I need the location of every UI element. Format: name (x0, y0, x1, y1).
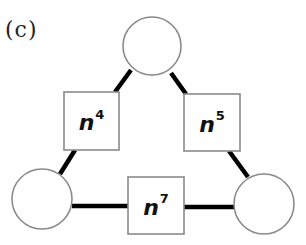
edge-left-bottom-left (60, 150, 75, 174)
factor-base: n (199, 112, 215, 137)
factor-base: n (143, 195, 159, 220)
factor-exponent: 4 (95, 107, 104, 122)
factor-base: n (79, 110, 95, 135)
edge-top-left (115, 70, 131, 92)
edge-right-bottom-right (229, 151, 248, 177)
edge-top-right (171, 73, 186, 94)
factor-exponent: 7 (160, 191, 169, 206)
variable-node-top (123, 17, 181, 75)
factor-label-right: n5 (184, 114, 240, 136)
variable-node-bottom-right (234, 174, 294, 234)
factor-exponent: 5 (216, 108, 225, 123)
factor-graph-diagram: (c) n4n5n7 (0, 0, 306, 245)
factor-label-bottom: n7 (128, 197, 184, 219)
variable-node-bottom-left (12, 169, 72, 229)
panel-label: (c) (5, 19, 38, 41)
factor-label-left: n4 (64, 112, 119, 134)
